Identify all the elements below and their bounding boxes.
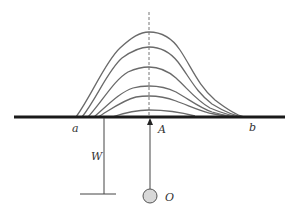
contour-diagram [0, 0, 294, 215]
contour-curve-5 [98, 96, 244, 117]
contour-curves [76, 32, 244, 117]
label-a: a [72, 123, 79, 134]
label-A: A [158, 124, 166, 135]
source-circle [143, 189, 157, 203]
contour-curve-1 [76, 32, 244, 117]
label-W: W [91, 151, 102, 162]
label-O: O [165, 192, 174, 203]
arrow-head-icon [147, 118, 153, 125]
label-b: b [249, 122, 256, 133]
